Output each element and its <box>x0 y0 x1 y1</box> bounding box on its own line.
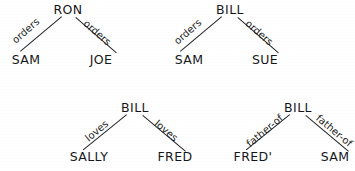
node-root-label: BILL <box>284 102 312 115</box>
node-right-leaf-label: JOE <box>90 54 113 67</box>
node-right-leaf-label: SAM <box>321 151 350 164</box>
node-root-label: BILL <box>216 4 244 17</box>
node-right-leaf-label: FRED <box>158 151 193 164</box>
node-left-leaf-label: SALLY <box>70 151 109 164</box>
edge-label-right: orders <box>81 19 112 48</box>
edge-label-right: father-of <box>314 113 354 149</box>
edge-label-right: orders <box>243 19 274 48</box>
node-left-leaf-label: SAM <box>12 54 41 67</box>
edge-label-right: loves <box>153 119 180 144</box>
edge-label-left: orders <box>172 18 203 47</box>
node-right-leaf-label: SUE <box>252 54 278 67</box>
node-root-label: BILL <box>121 102 149 115</box>
edge-label-left: father-of <box>245 113 285 149</box>
figure-canvas: RON SAM JOE orders orders BILL SAM SUE o… <box>0 0 355 171</box>
node-left-leaf-label: SAM <box>175 54 204 67</box>
node-root-label: RON <box>53 4 82 17</box>
edge-label-left: orders <box>10 17 41 46</box>
node-left-leaf-label: FRED' <box>234 151 273 164</box>
